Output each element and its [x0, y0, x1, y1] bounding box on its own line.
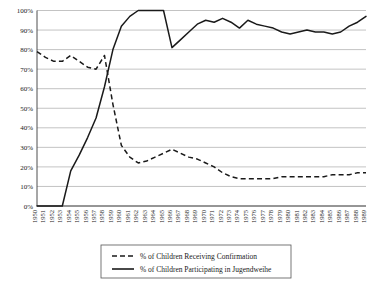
y-axis-labels-group: 100%90%80%70%60%50%40%30%20%10%0% [17, 7, 34, 211]
series-line-confirmation [37, 52, 366, 179]
y-axis-tick-label: 80% [20, 46, 33, 54]
x-axis-tick-label: 1950 [31, 210, 38, 223]
x-axis-tick-label: 1972 [217, 210, 224, 223]
x-axis-tick-label: 1988 [352, 210, 359, 223]
x-axis-tick-label: 1984 [318, 209, 325, 223]
x-axis-tick-label: 1978 [267, 210, 274, 223]
x-axis-tick-label: 1986 [335, 209, 342, 223]
x-axis-tick-label: 1970 [200, 210, 207, 223]
x-axis-tick-label: 1962 [132, 210, 139, 223]
x-axis-tick-label: 1959 [107, 210, 114, 223]
x-axis-tick-label: 1985 [326, 210, 333, 223]
x-axis-tick-label: 1967 [174, 209, 181, 223]
x-axis-tick-label: 1987 [343, 209, 350, 223]
y-axis-tick-label: 40% [20, 124, 33, 132]
x-axis-tick-label: 1961 [124, 210, 131, 223]
y-axis-tick-label: 50% [20, 105, 33, 113]
x-axis-tick-label: 1971 [208, 210, 215, 223]
x-axis-tick-label: 1976 [250, 209, 257, 223]
x-axis-tick-label: 1969 [191, 210, 198, 223]
y-axis-tick-label: 90% [20, 27, 33, 35]
x-axis-tick-label: 1951 [39, 210, 46, 223]
x-axis-tick-label: 1965 [158, 210, 165, 223]
x-axis-labels-group: 1950195119521953195419551956195719581959… [31, 209, 367, 223]
x-axis-tick-label: 1956 [82, 209, 89, 223]
x-axis-tick-label: 1981 [293, 210, 300, 223]
y-axis-tick-label: 10% [20, 183, 33, 191]
y-axis-tick-label: 20% [20, 164, 33, 172]
x-axis-tick-label: 1952 [48, 210, 55, 223]
y-axis-tick-label: 70% [20, 66, 33, 74]
legend-label: % of Children Receiving Confirmation [140, 252, 257, 261]
x-axis-tick-label: 1963 [141, 210, 148, 223]
x-axis-tick-label: 1973 [225, 210, 232, 223]
y-axis-tick-label: 60% [20, 85, 33, 93]
y-axis-tick-label: 30% [20, 144, 33, 152]
y-axis-tick-label: 0% [24, 203, 34, 211]
y-axis-tick-label: 100% [17, 7, 34, 15]
x-axis-tick-label: 1975 [242, 210, 249, 223]
x-axis-tick-label: 1964 [149, 209, 156, 223]
legend-label: % of Children Participating in Jugendwei… [140, 265, 272, 274]
x-axis-tick-label: 1954 [65, 209, 72, 223]
x-axis-tick-label: 1966 [166, 209, 173, 223]
x-axis-tick-label: 1958 [98, 210, 105, 223]
x-axis-tick-label: 1955 [73, 210, 80, 223]
x-axis-tick-label: 1983 [309, 210, 316, 223]
chart-legend: % of Children Receiving Confirmation% of… [101, 245, 291, 278]
x-axis-tick-label: 1957 [90, 209, 97, 223]
x-axis-tick-label: 1960 [115, 210, 122, 223]
chart-container: 100%90%80%70%60%50%40%30%20%10%0% 195019… [0, 0, 372, 288]
line-chart: 100%90%80%70%60%50%40%30%20%10%0% 195019… [0, 0, 372, 288]
x-axis-tick-label: 1982 [301, 210, 308, 223]
x-axis-tick-label: 1968 [183, 210, 190, 223]
x-axis-tick-label: 1953 [56, 210, 63, 223]
x-axis-tick-label: 1979 [276, 210, 283, 223]
x-axis-tick-label: 1980 [284, 210, 291, 223]
x-axis-tick-label: 1989 [360, 210, 367, 223]
x-axis-tick-label: 1974 [233, 209, 240, 223]
x-axis-tick-label: 1977 [259, 209, 266, 223]
